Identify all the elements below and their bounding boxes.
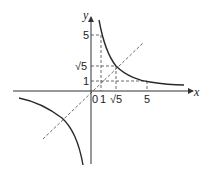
x-tick-label-sqrt5: √5 [110,93,122,105]
y-tick-label-5: 5 [83,29,89,41]
y-tick-label-1: 1 [83,75,89,87]
x-axis-label: x [193,85,200,99]
y-tick-label-sqrt5: √5 [75,60,87,72]
x-tick-label-5: 5 [144,93,150,105]
x-tick-label-1: 1 [100,93,106,105]
y-axis-label: y [82,8,89,22]
guide-lines [91,35,147,91]
graph-canvas: y x 0 1 √5 5 5 √5 1 [0,0,206,170]
hyperbola-branch-q1 [99,20,184,85]
origin-label: 0 [92,93,98,105]
